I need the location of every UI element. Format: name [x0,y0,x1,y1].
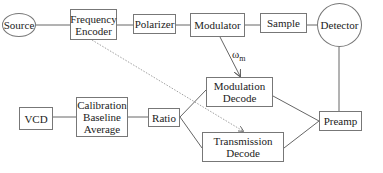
source-node: Source [2,13,36,37]
vcd-label: VCD [24,113,47,125]
sample-label: Sample [267,17,300,29]
sample-node: Sample [260,13,307,33]
edge-modulation-decode-ratio [180,90,206,117]
ratio-label: Ratio [152,112,176,124]
modulator-label: Modulator [194,19,240,31]
frequency-encoder-label: Frequency Encoder [70,13,116,37]
preamp-node: Preamp [319,111,362,131]
modulation-decode-node: Modulation Decode [206,77,273,107]
polarizer-node: Polarizer [133,14,176,34]
modulation-decode-label: Modulation Decode [211,80,268,104]
edge-transmission-decode-ratio [180,117,202,148]
calibration-node: Calibration Baseline Average [76,97,128,137]
modulator-node: Modulator [190,13,245,37]
source-label: Source [4,19,35,31]
vcd-node: VCD [19,107,53,130]
transmission-decode-label: Transmission Decode [209,135,277,159]
omega-m-label: ωm [232,48,245,63]
detector-node: Detector [317,3,362,47]
ratio-node: Ratio [148,108,180,127]
omega-subscript: m [239,54,245,63]
preamp-label: Preamp [324,115,358,127]
calibration-label: Calibration Baseline Average [77,99,127,135]
frequency-encoder-node: Frequency Encoder [70,9,117,40]
polarizer-label: Polarizer [135,18,175,30]
transmission-decode-node: Transmission Decode [202,132,284,162]
detector-label: Detector [321,19,359,31]
edge-preamp-transmission-decode [284,121,319,148]
edge-preamp-modulation-decode [273,96,319,121]
